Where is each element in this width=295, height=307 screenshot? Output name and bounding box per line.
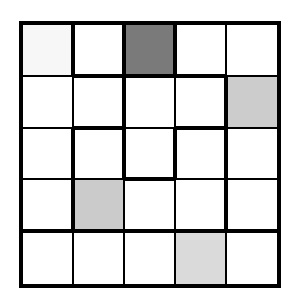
thick-border xyxy=(174,126,227,130)
grid-cell[interactable] xyxy=(226,76,279,128)
thick-border xyxy=(224,127,228,180)
outer-border-bottom xyxy=(19,284,281,288)
grid-cell[interactable] xyxy=(124,76,175,128)
thin-border xyxy=(174,178,176,232)
thin-border xyxy=(174,230,176,287)
thick-border xyxy=(122,75,126,129)
outer-border-right xyxy=(277,21,281,288)
grid-cell[interactable] xyxy=(175,231,226,286)
grid-cell[interactable] xyxy=(226,231,279,286)
thin-border xyxy=(72,75,74,129)
thick-border xyxy=(123,229,176,233)
grid-cell[interactable] xyxy=(226,179,279,231)
grid-cell[interactable] xyxy=(21,76,73,128)
thin-border xyxy=(174,75,176,129)
thick-border xyxy=(173,22,177,77)
outer-border-left xyxy=(19,21,23,288)
thick-border xyxy=(225,229,280,233)
thick-border xyxy=(122,22,126,77)
thick-border xyxy=(72,74,125,78)
thick-border xyxy=(71,127,75,180)
grid-cell[interactable] xyxy=(124,23,175,76)
thin-border xyxy=(225,22,227,77)
grid-cell[interactable] xyxy=(175,23,226,76)
thin-border xyxy=(123,178,125,232)
grid-cell[interactable] xyxy=(175,179,226,231)
thin-border xyxy=(123,230,125,287)
grid-cell[interactable] xyxy=(73,179,124,231)
grid-cell[interactable] xyxy=(73,76,124,128)
grid-cell[interactable] xyxy=(124,179,175,231)
thick-border xyxy=(174,229,227,233)
thin-border xyxy=(225,230,227,287)
thick-border xyxy=(173,127,177,180)
grid-cell[interactable] xyxy=(21,128,73,179)
thin-border xyxy=(20,127,74,129)
thick-border xyxy=(174,74,227,78)
thick-border xyxy=(224,75,228,129)
thin-border xyxy=(225,127,280,129)
grid-cell[interactable] xyxy=(175,76,226,128)
grid-cell[interactable] xyxy=(21,231,73,286)
grid-cell[interactable] xyxy=(124,128,175,179)
thin-border xyxy=(72,178,125,180)
grid-cell[interactable] xyxy=(73,128,124,179)
grid-cell[interactable] xyxy=(21,179,73,231)
thin-border xyxy=(20,178,74,180)
thin-border xyxy=(225,75,280,77)
thick-border xyxy=(224,178,228,232)
thin-border xyxy=(123,127,176,129)
thick-border xyxy=(123,74,176,78)
puzzle-grid xyxy=(21,23,279,286)
grid-cell[interactable] xyxy=(73,231,124,286)
thick-border xyxy=(20,229,74,233)
thick-border xyxy=(72,229,125,233)
thick-border xyxy=(71,178,75,232)
outer-border-top xyxy=(19,21,281,25)
grid-cell[interactable] xyxy=(226,128,279,179)
grid-cell[interactable] xyxy=(124,231,175,286)
thick-border xyxy=(71,22,75,77)
grid-cell[interactable] xyxy=(175,128,226,179)
thin-border xyxy=(72,230,74,287)
thin-border xyxy=(225,178,280,180)
grid-cell[interactable] xyxy=(73,23,124,76)
thick-border xyxy=(122,127,126,180)
thick-border xyxy=(72,126,125,130)
thick-border xyxy=(123,177,176,181)
grid-cell[interactable] xyxy=(21,23,73,76)
thin-border xyxy=(174,178,227,180)
grid-cell[interactable] xyxy=(226,23,279,76)
thin-border xyxy=(20,75,74,77)
